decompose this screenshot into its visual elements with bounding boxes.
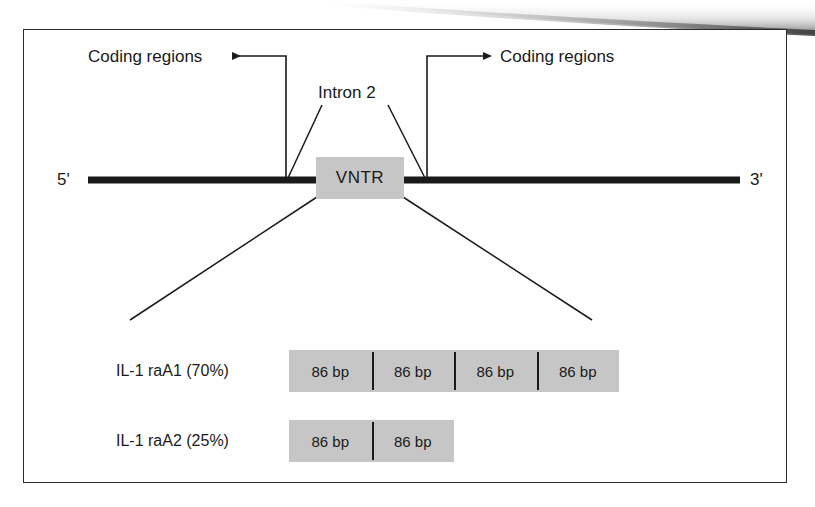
repeat-unit: 86 bp [537, 350, 620, 392]
coding-regions-label-right: Coding regions [500, 48, 614, 65]
repeat-unit: 86 bp [454, 350, 537, 392]
repeat-unit: 86 bp [289, 420, 372, 462]
coding-regions-label-left: Coding regions [88, 48, 202, 65]
five-prime-label: 5' [57, 171, 70, 188]
coding-region-leader-right [427, 56, 483, 180]
allele-label-1: IL-1 raA2 (25%) [116, 433, 229, 449]
repeat-unit: 86 bp [289, 350, 372, 392]
allele-repeat-bar-1: 86 bp 86 bp [289, 420, 454, 462]
vntr-box: VNTR [316, 157, 404, 199]
intron-2-label: Intron 2 [318, 84, 376, 101]
figure-root: Coding regions Coding regions Intron 2 5… [0, 0, 815, 507]
allele-label-0: IL-1 raA1 (70%) [116, 363, 229, 379]
allele-repeat-bar-0: 86 bp 86 bp 86 bp 86 bp [289, 350, 619, 392]
three-prime-label: 3' [750, 171, 763, 188]
repeat-unit: 86 bp [372, 350, 455, 392]
repeat-unit: 86 bp [372, 420, 455, 462]
coding-region-leader-left [232, 56, 286, 180]
vntr-expansion-lines [130, 197, 592, 320]
